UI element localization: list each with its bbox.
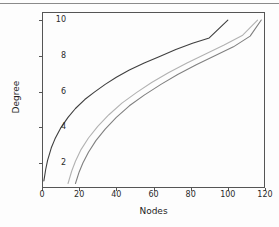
page-root: 020406080100120 246810 Nodes Degree (0, 0, 279, 227)
plot-curves (42, 12, 265, 188)
x-tick-label: 40 (111, 190, 121, 200)
x-tick-label: 80 (186, 190, 196, 200)
line-curve-light (68, 20, 258, 183)
line-curve-mid (75, 20, 261, 183)
chart-figure: 020406080100120 246810 Nodes Degree (0, 0, 279, 227)
y-tick-label: 2 (61, 158, 66, 168)
y-tick-label: 10 (56, 15, 66, 25)
y-tick-label: 6 (61, 87, 66, 97)
y-tick-mark (39, 56, 42, 57)
y-tick-label: 8 (61, 51, 66, 61)
x-tick-label: 20 (74, 190, 84, 200)
y-tick-mark (39, 163, 42, 164)
x-tick-label: 100 (220, 190, 235, 200)
y-axis-label: Degree (11, 67, 21, 127)
x-axis-label: Nodes (42, 206, 265, 216)
y-tick-mark (39, 127, 42, 128)
x-tick-label: 0 (39, 190, 44, 200)
y-tick-mark (39, 92, 42, 93)
x-tick-label: 60 (148, 190, 158, 200)
y-tick-label: 4 (61, 122, 66, 132)
x-tick-label: 120 (257, 190, 272, 200)
y-tick-mark (39, 20, 42, 21)
